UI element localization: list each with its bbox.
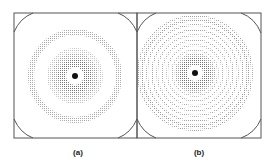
diffraction-figure [0, 0, 275, 163]
panel-a-label: (a) [63, 148, 93, 157]
panel-a-center-dot [72, 73, 78, 79]
panel-b-center-dot [192, 70, 198, 76]
panel-b-label: (b) [184, 148, 214, 157]
